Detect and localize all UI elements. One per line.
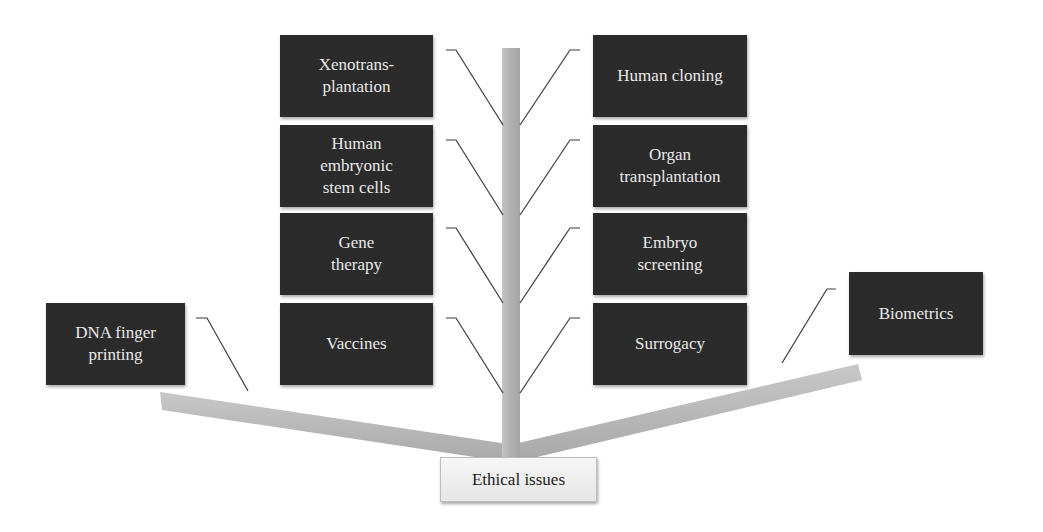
node-surrogacy: Surrogacy [593,303,747,385]
node-vaccines: Vaccines [280,303,433,385]
node-human-embryonic-stem-cells: Human embryonic stem cells [280,125,433,207]
node-xenotransplantation: Xenotrans- plantation [280,35,433,117]
node-gene-therapy: Gene therapy [280,213,433,295]
node-dna-fingerprinting: DNA finger printing [46,303,185,385]
node-organ-transplantation: Organ transplantation [593,125,747,207]
node-human-cloning: Human cloning [593,35,747,117]
tree-connectors [0,0,1043,532]
node-embryo-screening: Embryo screening [593,213,747,295]
trunk [502,48,520,458]
node-biometrics: Biometrics [849,272,983,355]
ethical-issues-tree-diagram: Xenotrans- plantation Human embryonic st… [0,0,1043,532]
root-node-ethical-issues: Ethical issues [440,457,597,502]
left-branch-bar [160,392,508,462]
